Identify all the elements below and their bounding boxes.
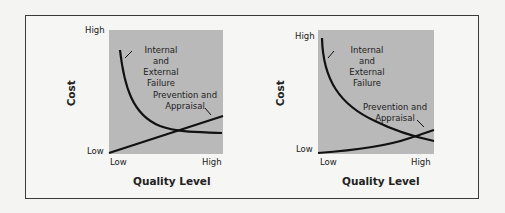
right-prevention-leader	[417, 120, 424, 127]
right-failure-curve	[322, 38, 434, 141]
right-failure-leader	[328, 51, 334, 58]
right-curves	[0, 0, 505, 213]
right-prevention-curve	[318, 130, 434, 153]
